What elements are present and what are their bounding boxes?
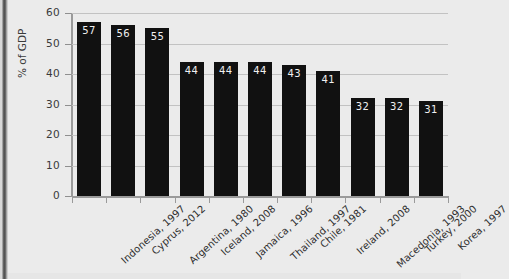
bar: 32 (351, 98, 375, 196)
y-axis-tick-label: 0 (53, 189, 60, 201)
x-axis-tick (72, 198, 73, 203)
x-axis-line (72, 196, 449, 198)
bar: 44 (248, 62, 272, 196)
bar-value-label: 44 (214, 65, 238, 76)
bar: 55 (145, 28, 169, 196)
bar: 44 (180, 62, 204, 196)
x-axis-tick (345, 198, 346, 203)
x-axis-tick (277, 198, 278, 203)
x-axis-tick (106, 198, 107, 203)
y-axis-tick-label: 20 (46, 128, 60, 140)
y-axis-tick-label: 50 (46, 37, 60, 49)
bar-value-label: 32 (385, 101, 409, 112)
bar-value-label: 43 (282, 68, 306, 79)
page-gutter (0, 0, 8, 279)
y-axis-tick-label: 40 (46, 67, 60, 79)
bar-chart: % of GDP 0102030405060 57565544444443413… (8, 0, 461, 279)
paper-edge (8, 273, 461, 279)
x-axis-tick (175, 198, 176, 203)
bar-value-label: 32 (351, 101, 375, 112)
bar: 31 (419, 101, 443, 196)
y-axis-tick-label: 30 (46, 98, 60, 110)
bar-value-label: 31 (419, 104, 443, 115)
bar-value-label: 44 (180, 65, 204, 76)
bar: 43 (282, 65, 306, 196)
y-axis-tick-label: 10 (46, 159, 60, 171)
bar-value-label: 44 (248, 65, 272, 76)
x-axis-tick (140, 198, 141, 203)
x-axis-tick (448, 198, 449, 203)
y-axis-tick-labels: 0102030405060 (8, 0, 60, 279)
bar-value-label: 56 (111, 28, 135, 39)
x-axis-tick (380, 198, 381, 203)
x-axis-tick (209, 198, 210, 203)
plot-area: 5756554444444341323231 (72, 13, 448, 196)
x-axis-tick (414, 198, 415, 203)
x-axis-tick (243, 198, 244, 203)
bar: 32 (385, 98, 409, 196)
bar-value-label: 55 (145, 31, 169, 42)
bar-value-label: 41 (316, 74, 340, 85)
bar-value-label: 57 (77, 25, 101, 36)
bar: 56 (111, 25, 135, 196)
bar: 44 (214, 62, 238, 196)
bar: 57 (77, 22, 101, 196)
bar: 41 (316, 71, 340, 196)
x-axis-tick (311, 198, 312, 203)
gridline (72, 13, 448, 14)
y-axis-tick-label: 60 (46, 6, 60, 18)
